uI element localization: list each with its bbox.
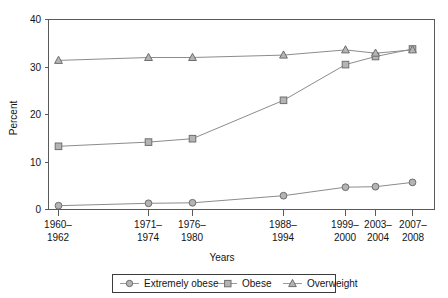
y-tick-label-20: 20 bbox=[30, 109, 42, 120]
plot-frame bbox=[49, 20, 435, 210]
y-tick-label-0: 0 bbox=[35, 204, 41, 215]
x-tick-label-4-line2: 2000 bbox=[334, 232, 357, 243]
circle-marker-icon bbox=[372, 183, 379, 190]
y-tick-label-30: 30 bbox=[30, 62, 42, 73]
y-tick-label-40: 40 bbox=[30, 14, 42, 25]
x-tick-label-2-line2: 1980 bbox=[181, 232, 204, 243]
circle-marker-icon bbox=[126, 280, 132, 286]
x-tick-label-1-line1: 1971– bbox=[134, 219, 162, 230]
triangle-marker-icon bbox=[342, 46, 350, 53]
triangle-marker-icon bbox=[145, 53, 153, 60]
square-marker-icon bbox=[225, 280, 231, 286]
circle-marker-icon bbox=[145, 200, 152, 207]
triangle-marker-icon bbox=[189, 53, 197, 60]
square-marker-icon bbox=[189, 135, 196, 142]
circle-marker-icon bbox=[55, 202, 62, 209]
legend-label-overweight: Overweight bbox=[307, 278, 358, 289]
y-tick-label-10: 10 bbox=[30, 157, 42, 168]
circle-marker-icon bbox=[342, 184, 349, 191]
series-obese bbox=[55, 46, 416, 150]
y-axis-title: Percent bbox=[8, 101, 19, 136]
x-tick-label-3-line1: 1988– bbox=[269, 219, 297, 230]
x-tick-label-4-line1: 1999– bbox=[331, 219, 359, 230]
circle-marker-icon bbox=[189, 199, 196, 206]
x-tick-label-6-line2: 2008 bbox=[402, 232, 425, 243]
x-tick-label-6-line1: 2007– bbox=[399, 219, 427, 230]
y-axis: 0 10 20 30 40 Percent bbox=[8, 14, 49, 215]
circle-marker-icon bbox=[409, 179, 416, 186]
x-tick-label-5-line1: 2003– bbox=[364, 219, 392, 230]
chart-container: 0 10 20 30 40 Percent 1960– 1962 1971– 1… bbox=[0, 0, 448, 298]
x-tick-label-0-line1: 1960– bbox=[44, 219, 72, 230]
series-line-1 bbox=[59, 49, 413, 146]
series-extremely-obese bbox=[55, 179, 416, 209]
legend-label-obese: Obese bbox=[242, 278, 272, 289]
series-overweight bbox=[55, 46, 417, 64]
line-chart: 0 10 20 30 40 Percent 1960– 1962 1971– 1… bbox=[0, 0, 448, 298]
triangle-marker-icon bbox=[55, 56, 63, 63]
square-marker-icon bbox=[55, 143, 62, 150]
series-layer bbox=[55, 46, 417, 209]
circle-marker-icon bbox=[280, 192, 287, 199]
series-line-2 bbox=[59, 50, 413, 61]
x-axis: 1960– 1962 1971– 1974 1976– 1980 1988– 1… bbox=[44, 210, 427, 264]
x-axis-title: Years bbox=[209, 252, 234, 263]
legend-label-extremely-obese: Extremely obese bbox=[144, 278, 219, 289]
x-tick-label-1-line2: 1974 bbox=[137, 232, 160, 243]
x-tick-label-2-line1: 1976– bbox=[178, 219, 206, 230]
square-marker-icon bbox=[280, 97, 287, 104]
x-tick-group bbox=[59, 210, 413, 216]
y-tick-group bbox=[45, 20, 49, 210]
x-tick-label-3-line2: 1994 bbox=[272, 232, 295, 243]
square-marker-icon bbox=[145, 139, 152, 146]
x-tick-label-0-line2: 1962 bbox=[47, 232, 70, 243]
square-marker-icon bbox=[342, 61, 349, 68]
x-tick-label-5-line2: 2004 bbox=[367, 232, 390, 243]
legend: Extremely obese Obese Overweight bbox=[113, 275, 358, 293]
series-line-0 bbox=[59, 182, 413, 205]
